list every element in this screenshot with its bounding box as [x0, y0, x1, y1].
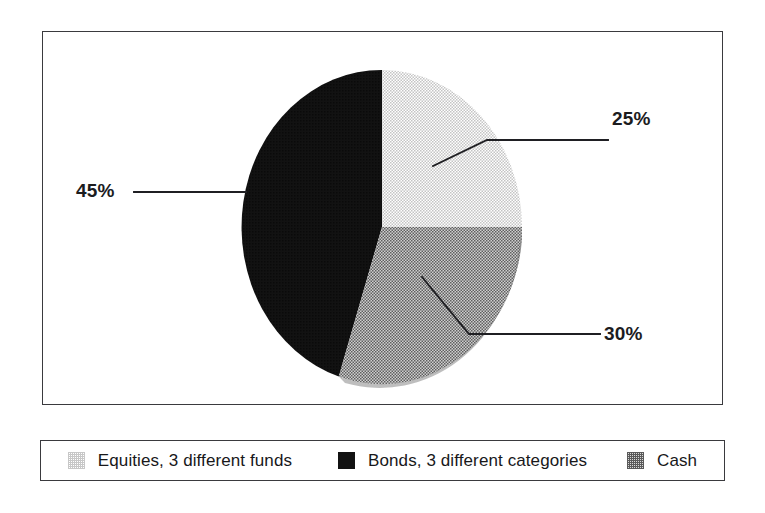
chart-canvas: 25% 30% 45% Equities, 3 different funds … [0, 0, 765, 513]
legend-swatch-cash-icon [627, 452, 644, 469]
data-label-bonds-percent: 45% [76, 180, 115, 202]
legend-label-bonds: Bonds, 3 different categories [368, 451, 587, 471]
plot-frame [42, 31, 723, 405]
legend-label-cash: Cash [657, 451, 697, 471]
legend-swatch-equities-icon [68, 452, 85, 469]
data-label-equities-percent: 25% [612, 108, 651, 130]
legend-swatch-bonds-icon [338, 452, 355, 469]
chart-legend: Equities, 3 different funds Bonds, 3 dif… [40, 440, 725, 481]
legend-label-equities: Equities, 3 different funds [98, 451, 292, 471]
legend-item-equities: Equities, 3 different funds [68, 451, 292, 471]
data-label-cash-percent: 30% [604, 323, 643, 345]
legend-item-cash: Cash [627, 451, 697, 471]
legend-item-bonds: Bonds, 3 different categories [338, 451, 587, 471]
